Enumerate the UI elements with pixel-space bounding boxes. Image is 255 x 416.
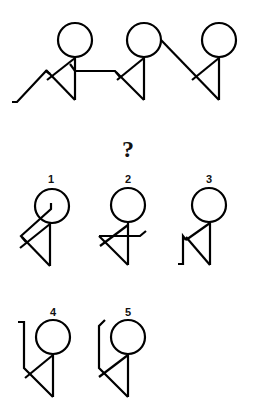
sequence-figure-3 — [192, 23, 236, 100]
sequence-figure-1 — [12, 23, 120, 102]
question-mark: ? — [118, 136, 138, 163]
option-1-label[interactable]: 1 — [41, 173, 61, 185]
option-3-figure[interactable] — [178, 188, 226, 265]
option-4-figure[interactable] — [18, 320, 70, 397]
option-4-label[interactable]: 4 — [43, 306, 63, 318]
option-2-label[interactable]: 2 — [118, 173, 138, 185]
option-3-label[interactable]: 3 — [199, 173, 219, 185]
puzzle-figure — [0, 0, 255, 416]
option-1-figure[interactable] — [20, 189, 69, 266]
option-5-label[interactable]: 5 — [118, 306, 138, 318]
option-2-figure[interactable] — [99, 188, 146, 265]
option-5-figure[interactable] — [99, 320, 145, 397]
